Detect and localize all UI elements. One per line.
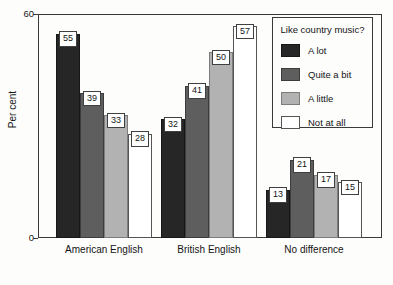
bar: [80, 93, 104, 238]
legend: Like country music? A lotQuite a bitA li…: [272, 17, 373, 128]
y-axis-tick-mark-min: [33, 238, 38, 239]
legend-item: A little: [281, 91, 333, 105]
bar-value-label: 41: [188, 83, 206, 99]
bar: [128, 134, 152, 238]
x-axis-category-label: No difference: [284, 244, 343, 255]
bar-value-label: 39: [83, 91, 101, 107]
legend-swatch: [281, 92, 300, 105]
x-axis-category-label: British English: [177, 244, 240, 255]
bar-value-label: 17: [317, 172, 335, 188]
legend-item-label: Not at all: [308, 117, 346, 128]
bar-value-label: 50: [212, 50, 230, 66]
legend-swatch: [281, 68, 300, 81]
legend-swatch: [281, 116, 300, 129]
x-axis-category-label: American English: [65, 244, 143, 255]
bar-value-label: 21: [293, 157, 311, 173]
bar: [56, 34, 80, 238]
legend-item-label: Quite a bit: [308, 69, 351, 80]
bar: [233, 26, 257, 238]
bar-value-label: 28: [131, 131, 149, 147]
bar: [161, 119, 185, 238]
bar-value-label: 33: [107, 113, 125, 129]
bar-value-label: 13: [269, 187, 287, 203]
bar: [104, 115, 128, 238]
y-axis-label: Per cent: [7, 75, 18, 145]
y-axis-tick-min: 0: [16, 232, 34, 243]
legend-item: Not at all: [281, 115, 346, 129]
legend-item-label: A little: [308, 93, 333, 104]
bar-value-label: 57: [236, 24, 254, 40]
legend-item: A lot: [281, 43, 327, 57]
bar-value-label: 15: [341, 180, 359, 196]
legend-item: Quite a bit: [281, 67, 351, 81]
y-axis-tick-max: 60: [16, 8, 34, 19]
chart-figure: 60 0 Per cent 553933283241505713211715 L…: [0, 0, 393, 285]
bar-value-label: 32: [164, 117, 182, 133]
legend-item-label: A lot: [308, 45, 327, 56]
legend-swatch: [281, 44, 300, 57]
legend-title: Like country music?: [273, 24, 372, 35]
bar-value-label: 55: [59, 31, 77, 47]
bar: [185, 86, 209, 238]
bar: [209, 52, 233, 238]
